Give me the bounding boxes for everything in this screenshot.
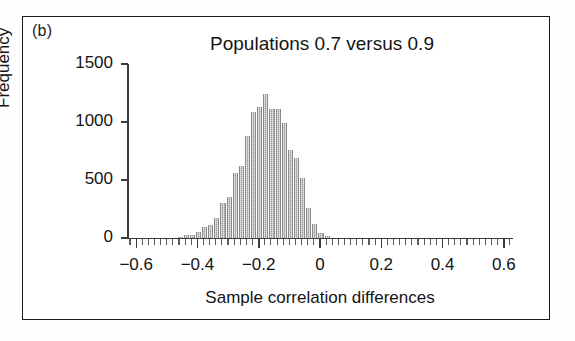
x-axis-tick-minor: [166, 239, 167, 245]
histogram-bar: [288, 150, 293, 238]
x-axis-tick-minor: [356, 239, 357, 245]
x-axis-tick-minor: [289, 239, 290, 245]
x-axis-tick-minor: [448, 239, 449, 245]
x-axis-tick-minor: [473, 239, 474, 245]
histogram-bar: [239, 166, 244, 238]
x-axis-tick-minor: [209, 239, 210, 245]
x-axis-tick-minor: [411, 239, 412, 245]
histogram-bar: [282, 123, 287, 238]
histogram-bar: [208, 225, 213, 238]
x-axis-tick-minor: [283, 239, 284, 245]
histogram-bar: [190, 235, 195, 238]
x-axis-tick-minor: [344, 239, 345, 245]
histogram-bar: [263, 94, 268, 238]
x-axis-tick-minor: [497, 239, 498, 245]
x-axis-tick-minor: [191, 239, 192, 245]
histogram-bar: [184, 235, 189, 238]
x-axis-tick-major: [503, 239, 504, 248]
x-axis-tick-minor: [129, 239, 130, 245]
x-axis-tick-minor: [405, 239, 406, 245]
x-axis-tick-minor: [485, 239, 486, 245]
histogram-bar: [178, 237, 183, 238]
x-axis-tick-label: 0.6: [474, 255, 534, 275]
x-axis-tick-minor: [387, 239, 388, 245]
x-axis-tick-minor: [215, 239, 216, 245]
x-axis-tick-minor: [350, 239, 351, 245]
x-axis-tick-minor: [424, 239, 425, 245]
x-axis-tick-label: 0.2: [351, 255, 411, 275]
x-axis-tick-major: [381, 239, 382, 248]
x-axis-tick-minor: [313, 239, 314, 245]
x-axis-tick-minor: [154, 239, 155, 245]
x-axis-tick-minor: [221, 239, 222, 245]
histogram-bar: [245, 136, 250, 238]
x-axis-title: Sample correlation differences: [127, 288, 513, 308]
x-axis-tick-minor: [240, 239, 241, 245]
x-axis-tick-minor: [252, 239, 253, 245]
x-axis-tick-minor: [393, 239, 394, 245]
histogram-bar: [196, 232, 201, 238]
x-axis-tick-minor: [307, 239, 308, 245]
x-axis-tick-minor: [142, 239, 143, 245]
x-axis-tick-minor: [479, 239, 480, 245]
x-axis-tick-minor: [338, 239, 339, 245]
x-axis-tick-minor: [399, 239, 400, 245]
histogram-bar: [202, 227, 207, 238]
x-axis-tick-minor: [436, 239, 437, 245]
x-axis-tick-minor: [295, 239, 296, 245]
x-axis-tick-minor: [227, 239, 228, 245]
histogram-bar: [227, 197, 232, 238]
x-axis-tick-minor: [234, 239, 235, 245]
x-axis-tick-minor: [509, 239, 510, 245]
histogram-bar: [318, 233, 323, 238]
x-axis-tick-minor: [466, 239, 467, 245]
histogram-bar: [300, 178, 305, 238]
x-axis-tick-minor: [178, 239, 179, 245]
x-axis-tick-label: 0: [290, 255, 350, 275]
x-axis-tick-minor: [332, 239, 333, 245]
histogram-bar: [214, 218, 219, 238]
x-axis-tick-minor: [491, 239, 492, 245]
histogram-bar: [306, 208, 311, 238]
x-axis-tick-minor: [246, 239, 247, 245]
x-axis-tick-minor: [160, 239, 161, 245]
histogram-bar: [257, 107, 262, 238]
x-axis-tick-label: −0.2: [229, 255, 289, 275]
x-axis-tick-minor: [277, 239, 278, 245]
x-axis-tick-label: −0.6: [106, 255, 166, 275]
x-axis-tick-minor: [430, 239, 431, 245]
x-axis-tick-minor: [375, 239, 376, 245]
histogram-bar: [233, 173, 238, 238]
x-axis-tick-minor: [362, 239, 363, 245]
x-axis-tick-minor: [185, 239, 186, 245]
x-axis-tick-major: [319, 239, 320, 248]
x-axis-tick-major: [442, 239, 443, 248]
x-axis-tick-minor: [203, 239, 204, 245]
x-axis-tick-label: 0.4: [413, 255, 473, 275]
x-axis-tick-major: [136, 239, 137, 248]
y-axis-title: Frequency: [0, 28, 14, 108]
x-axis-tick-minor: [460, 239, 461, 245]
histogram-bar: [269, 109, 274, 238]
x-axis-tick-label: −0.4: [167, 255, 227, 275]
x-axis-tick-major: [258, 239, 259, 248]
histogram-bar: [294, 158, 299, 238]
histogram-bar: [251, 112, 256, 238]
x-axis-tick-minor: [264, 239, 265, 245]
histogram-bar: [220, 203, 225, 238]
figure-panel: (b) Populations 0.7 versus 0.9 050010001…: [0, 0, 575, 341]
x-axis-tick-minor: [417, 239, 418, 245]
x-axis-tick-minor: [326, 239, 327, 245]
x-axis-tick-minor: [270, 239, 271, 245]
histogram-bar: [325, 236, 330, 238]
x-axis-tick-minor: [172, 239, 173, 245]
x-axis-tick-minor: [301, 239, 302, 245]
x-axis-tick-minor: [148, 239, 149, 245]
x-axis-tick-minor: [454, 239, 455, 245]
histogram-bar: [276, 109, 281, 238]
histogram-bars: [0, 0, 575, 238]
histogram-bar: [312, 224, 317, 238]
x-axis-tick-minor: [368, 239, 369, 245]
x-axis-tick-major: [197, 239, 198, 248]
